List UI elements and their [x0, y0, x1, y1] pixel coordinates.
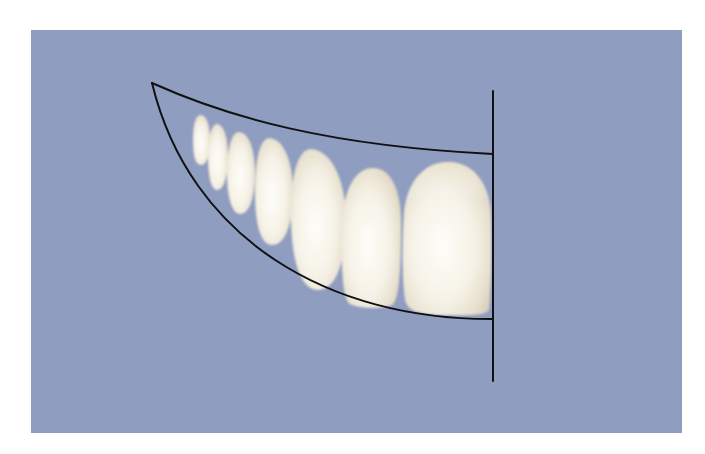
tooth-1-shade: [403, 162, 492, 315]
tooth-4: [255, 138, 293, 245]
tooth-3: [291, 149, 346, 290]
teeth-group: [193, 115, 491, 315]
tooth-5: [227, 132, 255, 214]
tooth-2: [342, 168, 401, 308]
tooth-6: [208, 124, 228, 190]
dental-diagram: [0, 0, 705, 454]
tooth-7: [193, 115, 210, 165]
figure-stage: [0, 0, 705, 454]
